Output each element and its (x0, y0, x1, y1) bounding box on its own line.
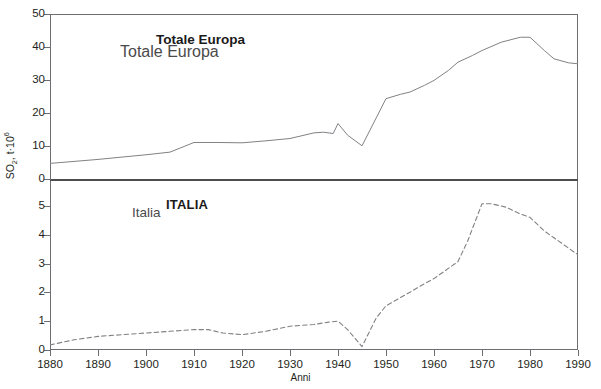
x-tick-1900 (146, 350, 147, 356)
x-tick-1960 (434, 350, 435, 356)
x-tick-1970 (482, 350, 483, 356)
y-label-lower-0: 0 (5, 344, 45, 356)
y-label-lower-5: 5 (5, 200, 45, 212)
x-tick-1920 (242, 350, 243, 356)
x-tick-1950 (386, 350, 387, 356)
x-label-1900: 1900 (123, 358, 169, 370)
x-label-1950: 1950 (363, 358, 409, 370)
y-label-lower-4: 4 (5, 229, 45, 241)
y-label-upper-20: 20 (5, 107, 45, 119)
y-axis-title-superscript: 6 (3, 132, 11, 136)
europa-series-layer (50, 14, 578, 180)
x-label-1980: 1980 (507, 358, 553, 370)
x-label-1960: 1960 (411, 358, 457, 370)
x-tick-1940 (338, 350, 339, 356)
italia-label-plain: Italia (132, 205, 161, 220)
y-label-upper-30: 30 (5, 74, 45, 86)
x-label-1890: 1890 (75, 358, 121, 370)
y-label-upper-50: 50 (5, 8, 45, 20)
x-tick-1980 (530, 350, 531, 356)
x-label-1880: 1880 (27, 358, 73, 370)
y-label-lower-3: 3 (5, 258, 45, 270)
y-axis-title-subscript: 2 (11, 160, 19, 164)
x-label-1910: 1910 (171, 358, 217, 370)
x-label-1940: 1940 (315, 358, 361, 370)
italia-series-layer (50, 180, 578, 350)
x-tick-1880 (50, 350, 51, 356)
italia-label-bold: ITALIA (166, 197, 208, 212)
x-tick-1990 (578, 350, 579, 356)
italia-line-svg (50, 180, 578, 350)
x-label-1970: 1970 (459, 358, 505, 370)
x-tick-1930 (290, 350, 291, 356)
x-label-1990: 1990 (555, 358, 601, 370)
y-label-lower-1: 1 (5, 315, 45, 327)
x-tick-1910 (194, 350, 195, 356)
y-axis-title-mid: , t·10 (4, 136, 16, 160)
y-axis-title: SO2, t·106 (3, 121, 19, 191)
x-label-1930: 1930 (267, 358, 313, 370)
europa-line-svg (50, 14, 578, 180)
x-tick-1890 (98, 350, 99, 356)
x-axis-title: Anni (0, 372, 601, 383)
y-label-lower-2: 2 (5, 286, 45, 298)
x-label-1920: 1920 (219, 358, 265, 370)
europa-label-plain: Totale Europa (120, 43, 219, 61)
chart-figure: 50 40 30 20 10 0 5 4 3 2 1 0 1880 1890 1… (0, 0, 601, 389)
y-label-upper-40: 40 (5, 41, 45, 53)
y-axis-title-prefix: SO (4, 164, 16, 179)
